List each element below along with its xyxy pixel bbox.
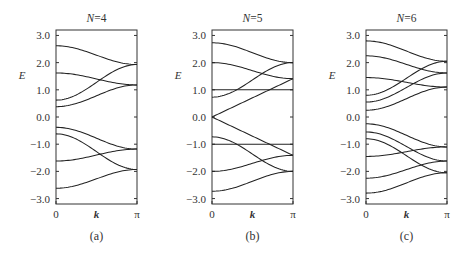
y-tick-label: −3.0 [30,193,50,205]
energy-band [56,169,137,188]
y-tick-label: −1.0 [340,138,360,150]
energy-band [212,137,293,172]
y-tick-label: −2.0 [340,165,360,177]
panel-c: 3.02.01.00.0−1.0−2.0−3.00πkEN=6(c) [328,12,451,243]
y-axis-label: E [328,69,336,81]
plot-frame [366,30,447,204]
plot-frame [56,30,137,204]
energy-band [366,132,447,161]
x-tick-label: π [134,208,140,220]
energy-band [212,63,293,98]
x-tick-label: π [444,208,450,220]
energy-band [366,87,447,110]
panel-caption: (a) [90,229,103,243]
energy-band [56,73,137,85]
y-tick-label: 2.0 [192,57,206,69]
y-tick-label: 1.0 [346,84,360,96]
x-axis-label: k [250,208,256,220]
y-tick-label: 0.0 [36,111,50,123]
energy-band [56,65,137,101]
energy-band [56,85,137,107]
energy-band [366,56,447,73]
y-tick-label: 1.0 [36,84,50,96]
energy-band [212,79,293,117]
panel-title: N=5 [242,12,263,24]
x-tick-label: 0 [53,208,59,220]
energy-band [56,134,137,170]
energy-band [212,43,293,63]
y-tick-label: 2.0 [36,57,50,69]
panel-title: N=4 [86,12,107,24]
energy-band [212,117,293,155]
energy-band [56,46,137,65]
y-tick-label: 2.0 [346,57,360,69]
y-tick-label: −1.0 [186,138,206,150]
energy-band [56,149,137,161]
energy-band [366,173,447,193]
y-tick-label: −1.0 [30,138,50,150]
x-axis-label: k [94,208,100,220]
y-tick-label: 3.0 [346,29,360,41]
panel-a: 3.02.01.00.0−1.0−2.0−3.00πkEN=4(a) [18,12,141,243]
y-tick-label: 0.0 [346,111,360,123]
energy-band [212,171,293,191]
y-tick-label: −2.0 [186,165,206,177]
y-tick-label: 3.0 [36,29,50,41]
energy-band [366,124,447,147]
x-tick-label: 0 [363,208,369,220]
x-tick-label: π [290,208,296,220]
energy-band [366,147,447,157]
y-axis-label: E [174,69,182,81]
panel-title: N=6 [396,12,417,24]
y-tick-label: −3.0 [186,193,206,205]
x-tick-label: 0 [209,208,215,220]
y-axis-label: E [18,69,26,81]
y-tick-label: 3.0 [192,29,206,41]
energy-band [56,127,137,149]
energy-band [366,41,447,61]
band-structure-figure: 3.02.01.00.0−1.0−2.0−3.00πkEN=4(a) 3.02.… [0,0,466,255]
y-tick-label: 1.0 [192,84,206,96]
panel-caption: (c) [400,229,413,243]
energy-band [366,73,447,102]
plot-frame [212,30,293,204]
y-tick-label: −3.0 [340,193,360,205]
energy-band [366,78,447,88]
y-tick-label: 0.0 [192,111,206,123]
panel-b: 3.02.01.00.0−1.0−2.0−3.00πkEN=5(b) [174,12,297,243]
x-axis-label: k [404,208,410,220]
panel-caption: (b) [246,229,260,243]
y-tick-label: −2.0 [30,165,50,177]
energy-band [366,161,447,178]
